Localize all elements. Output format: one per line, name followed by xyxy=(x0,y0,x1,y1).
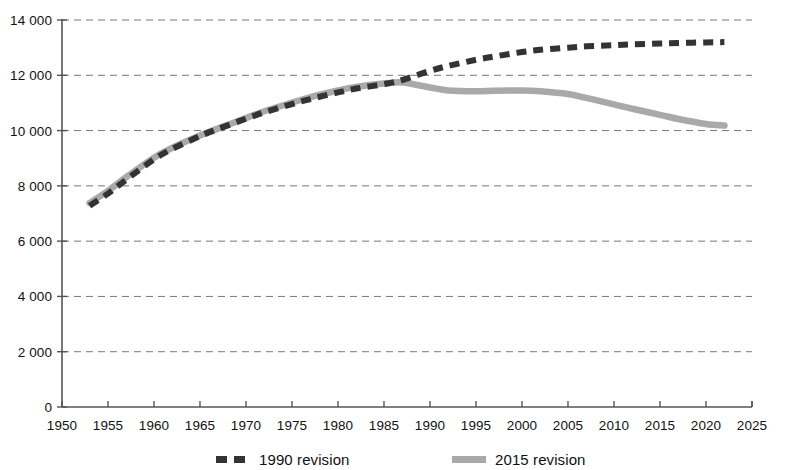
x-axis-tick-label: 1990 xyxy=(415,418,445,433)
y-axis-tick-label: 2 000 xyxy=(18,344,52,359)
y-axis-tick-label: 8 000 xyxy=(18,178,52,193)
y-axis-tick-label: 14 000 xyxy=(10,13,52,28)
x-axis-tick-label: 1965 xyxy=(185,418,215,433)
y-axis-tick-label: 12 000 xyxy=(10,68,52,83)
x-axis-tick-label: 1995 xyxy=(461,418,491,433)
series-line xyxy=(90,82,725,203)
x-axis-tick-label: 1985 xyxy=(369,418,399,433)
chart-legend: 1990 revision2015 revision xyxy=(0,443,789,470)
x-axis-tick-label: 2025 xyxy=(737,418,767,433)
legend-label: 2015 revision xyxy=(495,451,586,468)
legend-swatch-dashed-icon xyxy=(216,456,250,463)
series-line xyxy=(90,42,725,206)
x-axis-tick-label: 2020 xyxy=(691,418,721,433)
x-axis-tick-label: 2000 xyxy=(507,418,537,433)
x-axis-tick-label: 1955 xyxy=(93,418,123,433)
legend-entry[interactable]: 2015 revision xyxy=(452,451,586,468)
y-axis-tick-label: 0 xyxy=(44,400,52,415)
x-axis-tick-label: 1950 xyxy=(47,418,77,433)
y-axis-tick-label: 10 000 xyxy=(10,123,52,138)
x-axis-tick-label: 2005 xyxy=(553,418,583,433)
legend-label: 1990 revision xyxy=(259,451,350,468)
chart-plot-area xyxy=(0,0,789,470)
x-axis-tick-label: 1975 xyxy=(277,418,307,433)
y-axis-tick-label: 4 000 xyxy=(18,289,52,304)
x-axis-tick-label: 1980 xyxy=(323,418,353,433)
legend-swatch-solid-icon xyxy=(452,456,486,463)
y-axis-tick-label: 6 000 xyxy=(18,234,52,249)
line-chart: 02 0004 0006 0008 00010 00012 00014 000 … xyxy=(0,0,789,470)
x-axis-tick-label: 1960 xyxy=(139,418,169,433)
x-axis-tick-label: 2015 xyxy=(645,418,675,433)
x-axis-tick-label: 2010 xyxy=(599,418,629,433)
legend-entry[interactable]: 1990 revision xyxy=(216,451,350,468)
x-axis-tick-label: 1970 xyxy=(231,418,261,433)
